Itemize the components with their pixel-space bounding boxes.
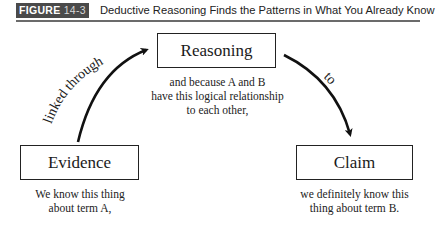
- edge-label-linked-through: linked through: [40, 53, 105, 125]
- node-reasoning: Reasoning: [157, 33, 276, 68]
- caption-line: about term A,: [10, 201, 150, 215]
- caption-line: to each other,: [140, 103, 295, 117]
- caption-line: have this logical relationship: [140, 89, 295, 103]
- caption-line: thing about term B.: [283, 201, 426, 215]
- caption-line: We know this thing: [10, 187, 150, 201]
- caption-evidence: We know this thing about term A,: [10, 187, 150, 215]
- caption-reasoning: and because A and B have this logical re…: [140, 75, 295, 117]
- node-evidence: Evidence: [20, 145, 139, 180]
- caption-line: and because A and B: [140, 75, 295, 89]
- caption-line: we definitely know this: [283, 187, 426, 201]
- caption-claim: we definitely know this thing about term…: [283, 187, 426, 215]
- node-claim: Claim: [296, 145, 413, 180]
